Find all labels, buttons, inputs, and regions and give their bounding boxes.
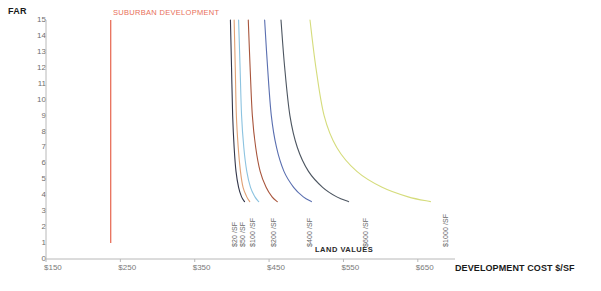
series-curve [239, 20, 259, 202]
series-label: $400 /SF [306, 218, 313, 247]
x-axis-tick-label: $550 [341, 263, 359, 272]
x-axis-tick-label: $350 [193, 263, 211, 272]
series-label: $1000 /SF [442, 214, 449, 247]
x-axis-tick-label: $650 [416, 263, 434, 272]
series-label: $600 /SF [362, 218, 369, 247]
plot-area [0, 0, 601, 291]
x-axis-tick-label: $450 [267, 263, 285, 272]
far-vs-development-cost-chart: FAR 0123456789101112131415 SUBURBAN DEVE… [0, 0, 601, 291]
series-curve [281, 20, 349, 202]
series-label: $200 /SF [270, 218, 277, 247]
series-label: $20 /SF [231, 222, 238, 247]
series-curve [310, 20, 430, 202]
series-label: $100 /SF [249, 218, 256, 247]
series-curve [230, 20, 244, 202]
series-curves [230, 20, 430, 202]
x-axis-tick-label: $250 [118, 263, 136, 272]
x-axis-tick-label: $150 [44, 263, 62, 272]
series-curve [248, 20, 277, 202]
series-label: $50 /SF [239, 222, 246, 247]
series-curve [265, 20, 312, 202]
